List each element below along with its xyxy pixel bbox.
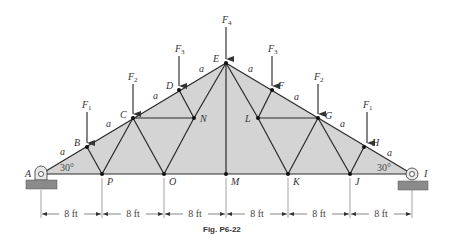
- joint-label-P: P: [106, 176, 113, 187]
- joint-label-F: F: [277, 80, 285, 91]
- svg-text:a: a: [60, 146, 65, 157]
- joint-label-E: E: [212, 53, 219, 64]
- svg-text:a: a: [199, 63, 204, 74]
- svg-text:a: a: [248, 63, 253, 74]
- svg-text:8 ft: 8 ft: [312, 208, 326, 219]
- svg-text:8 ft: 8 ft: [374, 208, 388, 219]
- joint-label-G: G: [325, 110, 332, 121]
- joint-label-K: K: [292, 176, 301, 187]
- joint-label-D: D: [165, 80, 174, 91]
- svg-text:8 ft: 8 ft: [126, 208, 140, 219]
- joint-label-J: J: [355, 176, 360, 187]
- svg-text:a: a: [106, 118, 111, 129]
- joint-label-L: L: [244, 113, 251, 124]
- joint-label-B: B: [74, 137, 80, 148]
- figure-caption: Fig. P6-22: [203, 225, 241, 234]
- truss-diagram: F1 F2 F3 F4 F3 F2 F1 A B C D E F G H I N…: [0, 0, 455, 249]
- svg-text:8 ft: 8 ft: [64, 208, 78, 219]
- load-label-F1-left: F1: [81, 99, 92, 112]
- load-label-F2-right: F2: [313, 71, 324, 84]
- svg-text:a: a: [387, 147, 392, 158]
- angle-label-right: 30°: [377, 162, 391, 173]
- joint-label-A: A: [24, 168, 32, 179]
- load-label-F3-left: F3: [174, 43, 185, 56]
- angle-label-left: 30°: [60, 162, 74, 173]
- svg-text:8 ft: 8 ft: [250, 208, 264, 219]
- joint-label-M: M: [230, 176, 240, 187]
- joint-label-C: C: [120, 109, 127, 120]
- joint-label-H: H: [371, 137, 380, 148]
- joint-label-O: O: [169, 176, 176, 187]
- joint-label-I: I: [423, 168, 428, 179]
- load-label-F2-left: F2: [127, 71, 138, 84]
- joint-label-N: N: [199, 113, 208, 124]
- svg-text:a: a: [153, 90, 158, 101]
- load-label-F4: F4: [221, 14, 232, 27]
- svg-text:a: a: [294, 91, 299, 102]
- load-label-F3-right: F3: [267, 43, 278, 56]
- load-label-F1-right: F1: [362, 99, 373, 112]
- svg-text:8 ft: 8 ft: [188, 208, 202, 219]
- svg-text:a: a: [340, 118, 345, 129]
